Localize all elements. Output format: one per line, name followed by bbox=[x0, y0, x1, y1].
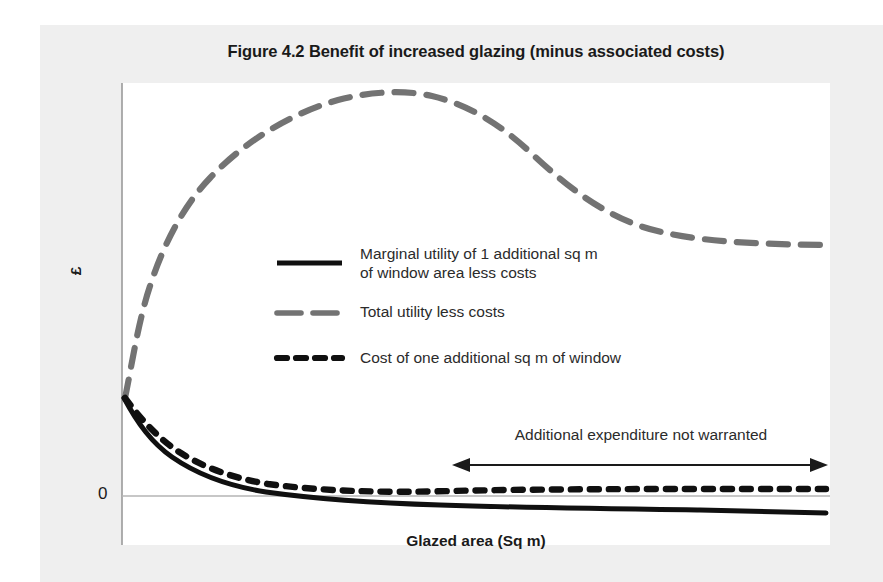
legend-label-total-utility: Total utility less costs bbox=[360, 302, 505, 321]
y-axis-tick-zero: 0 bbox=[98, 484, 107, 504]
x-axis-label: Glazed area (Sq m) bbox=[122, 532, 830, 550]
annotation-label: Additional expenditure not warranted bbox=[455, 426, 827, 444]
series-cost-of-one-additional-sqm bbox=[125, 398, 826, 492]
legend-label-marginal-utility: Marginal utility of 1 additional sq m of… bbox=[360, 244, 598, 282]
annotation-arrow bbox=[452, 458, 828, 472]
chart-canvas bbox=[0, 0, 883, 582]
legend-label-cost: Cost of one additional sq m of window bbox=[360, 348, 621, 367]
y-axis-label: £ bbox=[67, 267, 85, 276]
figure-page: Figure 4.2 Benefit of increased glazing … bbox=[0, 0, 883, 582]
